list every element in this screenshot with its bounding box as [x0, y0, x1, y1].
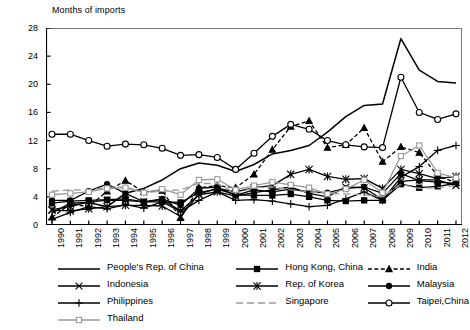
- legend-label: People's Rep. of China: [102, 261, 204, 272]
- legend-label: Thailand: [102, 312, 143, 323]
- legend-label: Rep. of Korea: [280, 278, 344, 289]
- x-tick-label: 1997: [185, 228, 195, 248]
- x-tick-label: 1992: [93, 228, 103, 248]
- legend-item-singapore[interactable]: Singapore: [234, 295, 365, 307]
- x-tick-label: 2010: [423, 228, 433, 248]
- legend-label: Taipei,China: [412, 295, 469, 306]
- legend-row: PhilippinesSingaporeTaipei,China: [30, 292, 469, 309]
- legend-label: India: [412, 261, 438, 272]
- legend-key-icon: [366, 261, 412, 273]
- legend-label: Singapore: [280, 295, 328, 306]
- legend-key-icon: [234, 278, 280, 290]
- legend-key-icon: [234, 295, 280, 307]
- series-canvas: [46, 28, 462, 225]
- legend-item-indonesia[interactable]: Indonesia: [30, 278, 234, 290]
- legend-key-icon: [56, 312, 102, 324]
- legend-key-icon: [56, 261, 102, 273]
- legend-key-icon: [56, 278, 102, 290]
- y-axis-labels: 0481216202428: [0, 0, 46, 240]
- legend-label: Indonesia: [102, 278, 148, 289]
- y-tick-label: 28: [28, 23, 38, 33]
- x-tick-label: 1990: [56, 228, 66, 248]
- x-tick-label: 1995: [148, 228, 158, 248]
- x-tick-label: 2007: [368, 228, 378, 248]
- x-tick-label: 1998: [203, 228, 213, 248]
- x-tick-label: 2001: [258, 228, 268, 248]
- legend-item-hong-kong-china[interactable]: Hong Kong, China: [234, 261, 365, 273]
- legend-key-icon: [366, 278, 412, 290]
- x-tick-label: 1994: [129, 228, 139, 248]
- x-tick-label: 2006: [350, 228, 360, 248]
- x-tick-label: 2003: [295, 228, 305, 248]
- y-tick-label: 8: [33, 164, 38, 174]
- legend-label: Malaysia: [412, 278, 455, 289]
- x-tick-label: 2011: [442, 228, 452, 247]
- y-tick-label: 16: [28, 107, 38, 117]
- legend-key-icon: [56, 295, 102, 307]
- chart-legend: People's Rep. of ChinaHong Kong, ChinaIn…: [30, 258, 469, 326]
- legend-row: IndonesiaRep. of KoreaMalaysia: [30, 275, 469, 292]
- x-tick-label: 2009: [405, 228, 415, 248]
- legend-row: People's Rep. of ChinaHong Kong, ChinaIn…: [30, 258, 469, 275]
- legend-label: Hong Kong, China: [280, 261, 363, 272]
- x-tick-label: 2005: [331, 228, 341, 248]
- legend-row: Thailand: [30, 309, 469, 326]
- y-tick-label: 12: [28, 136, 38, 146]
- series-taipei-china: [49, 74, 459, 172]
- x-tick-label: 2012: [460, 228, 470, 248]
- legend-item-rep-of-korea[interactable]: Rep. of Korea: [234, 278, 365, 290]
- legend-key-icon: [234, 261, 280, 273]
- x-tick-label: 2004: [313, 228, 323, 248]
- x-tick-label: 2002: [276, 228, 286, 248]
- plot-area: [46, 28, 462, 225]
- x-tick-label: 1991: [74, 228, 84, 248]
- legend-item-india[interactable]: India: [366, 261, 469, 273]
- y-tick-label: 24: [28, 51, 38, 61]
- x-tick-label: 1999: [221, 228, 231, 248]
- legend-key-icon: [366, 295, 412, 307]
- x-tick-label: 1996: [166, 228, 176, 248]
- legend-item-philippines[interactable]: Philippines: [30, 295, 234, 307]
- y-tick-label: 0: [33, 220, 38, 230]
- y-tick-label: 20: [28, 79, 38, 89]
- legend-item-people-s-rep-of-china[interactable]: People's Rep. of China: [30, 261, 234, 273]
- legend-label: Philippines: [102, 295, 153, 306]
- x-tick-label: 1993: [111, 228, 121, 248]
- legend-item-malaysia[interactable]: Malaysia: [366, 278, 469, 290]
- legend-item-taipei-china[interactable]: Taipei,China: [366, 295, 469, 307]
- y-axis-title: Months of imports: [52, 5, 125, 15]
- x-tick-label: 2000: [240, 228, 250, 248]
- legend-item-thailand[interactable]: Thailand: [30, 312, 246, 324]
- x-tick-label: 2008: [387, 228, 397, 248]
- y-tick-label: 4: [33, 192, 38, 202]
